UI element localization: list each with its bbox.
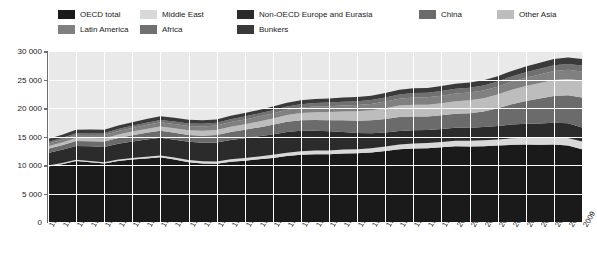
y-axis-labels: 30 00025 00020 00015 00010 0005 0000 [0, 40, 45, 225]
legend-swatch-icon [419, 10, 436, 19]
gridline-vertical [189, 51, 190, 222]
gridline-vertical [329, 51, 330, 222]
gridline-vertical [526, 51, 527, 222]
y-axis-tick-mark [44, 137, 48, 139]
y-axis-tick-label: 30 000 [18, 47, 42, 56]
y-axis-tick-label: 5 000 [22, 189, 42, 198]
legend-item-china[interactable]: China [419, 7, 462, 22]
y-axis-tick-mark [44, 108, 48, 110]
legend-label: Other Asia [519, 10, 556, 19]
legend-item-non-oecd-europe-and-eurasia[interactable]: Non-OECD Europe and Eurasia [237, 7, 372, 22]
y-axis-tick-mark [44, 80, 48, 82]
legend-item-middle-east[interactable]: Middle East [140, 7, 204, 22]
gridline-vertical [470, 51, 471, 222]
gridline-vertical [48, 51, 49, 222]
gridline-horizontal [48, 194, 582, 195]
gridline-vertical [245, 51, 246, 222]
legend-label: OECD total [80, 10, 120, 19]
legend-item-oecd-total[interactable]: OECD total [58, 7, 120, 22]
legend-swatch-icon [497, 10, 514, 19]
plot-wrapper: 30 00025 00020 00015 00010 0005 0000 197… [0, 40, 586, 262]
gridline-vertical [217, 51, 218, 222]
y-axis-tick-mark [44, 194, 48, 196]
gridline-horizontal [48, 108, 582, 109]
legend-item-bunkers[interactable]: Bunkers [237, 22, 288, 37]
gridline-vertical [582, 51, 583, 222]
gridline-vertical [104, 51, 105, 222]
gridline-vertical [273, 51, 274, 222]
gridline-vertical [76, 51, 77, 222]
y-axis-tick-mark [44, 165, 48, 167]
legend-item-other-asia[interactable]: Other Asia [497, 7, 556, 22]
y-axis-tick-label: 15 000 [18, 132, 42, 141]
legend-label: China [441, 10, 462, 19]
x-axis-labels: 1971197219731974197519761977197819791980… [48, 224, 582, 262]
plot-area [48, 51, 582, 222]
y-axis-tick-label: 10 000 [18, 161, 42, 170]
gridline-vertical [301, 51, 302, 222]
legend-label: Non-OECD Europe and Eurasia [259, 10, 372, 19]
gridline-vertical [385, 51, 386, 222]
legend-swatch-icon [237, 25, 254, 34]
legend-row-2: Latin AmericaAfricaBunkers [0, 22, 586, 37]
gridline-vertical [132, 51, 133, 222]
y-axis-tick-label: 25 000 [18, 75, 42, 84]
legend-label: Latin America [80, 25, 128, 34]
gridline-horizontal [48, 80, 582, 81]
y-axis-tick-mark [44, 51, 48, 53]
gridline-vertical [357, 51, 358, 222]
legend-swatch-icon [237, 10, 254, 19]
gridline-vertical [498, 51, 499, 222]
y-axis-tick-label: 0 [38, 218, 42, 227]
gridline-horizontal [48, 165, 582, 166]
x-axis-tick-label: 2009 [581, 210, 597, 229]
legend-swatch-icon [58, 10, 75, 19]
gridline-vertical [441, 51, 442, 222]
gridline-vertical [160, 51, 161, 222]
legend-label: Africa [162, 25, 182, 34]
legend-row-1: OECD totalMiddle EastNon-OECD Europe and… [0, 7, 586, 22]
legend-swatch-icon [140, 10, 157, 19]
gridline-horizontal [48, 51, 582, 52]
legend-item-latin-america[interactable]: Latin America [58, 22, 128, 37]
legend-label: Middle East [162, 10, 204, 19]
y-axis-tick-label: 20 000 [18, 104, 42, 113]
legend-item-africa[interactable]: Africa [140, 22, 182, 37]
legend-label: Bunkers [259, 25, 288, 34]
legend-swatch-icon [58, 25, 75, 34]
gridline-vertical [554, 51, 555, 222]
gridline-vertical [413, 51, 414, 222]
legend-swatch-icon [140, 25, 157, 34]
gridline-horizontal [48, 137, 582, 138]
chart-legend: OECD totalMiddle EastNon-OECD Europe and… [0, 0, 586, 40]
